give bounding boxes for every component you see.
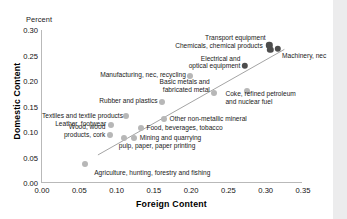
x-axis-tick: 0.35: [296, 186, 311, 195]
data-point: [108, 122, 114, 128]
data-point: [107, 132, 113, 138]
x-axis-tick: 0.25: [221, 186, 236, 195]
point-annotation: Other non-metallic mineral: [170, 115, 247, 123]
y-axis-label: Domestic Content: [12, 46, 22, 156]
data-point: [82, 161, 88, 167]
data-point: [159, 99, 165, 105]
x-axis-tick: 0.20: [184, 186, 199, 195]
data-point: [123, 113, 129, 119]
x-axis-label: Foreign Content: [41, 199, 302, 209]
x-axis-tick: 0.15: [146, 186, 161, 195]
point-annotation: Wood, wood products, cork: [42, 124, 105, 140]
point-annotation: Rubber and plastics: [42, 98, 158, 106]
point-annotation: pulp, paper, paper printing: [119, 142, 196, 150]
data-point: [138, 125, 144, 131]
point-annotation: Textiles and textile products: [42, 112, 121, 120]
y-axis-tick: 0.30: [23, 26, 38, 35]
unit-label: Percent: [26, 15, 52, 24]
point-annotation: Agriculture, hunting, forestry and fishi…: [94, 169, 210, 177]
y-axis-tick: 0.10: [23, 128, 38, 137]
x-axis-tick: 0.30: [258, 186, 273, 195]
point-annotation: Transport equipment: [42, 34, 266, 42]
point-annotation: Food, beverages, tobacco: [146, 124, 222, 132]
data-point: [121, 135, 127, 141]
point-annotation: Coke, refined petroleum and nuclear fuel: [225, 91, 295, 107]
scatter-chart: Percent Domestic Content 0.000.050.100.1…: [0, 0, 347, 219]
point-annotation: Chemicals, chemical products: [42, 42, 263, 50]
point-annotation: Machinery, nec: [282, 52, 326, 60]
trendline: [42, 30, 303, 183]
y-axis-tick: 0.20: [23, 77, 38, 86]
x-axis-tick: 0.05: [72, 186, 87, 195]
x-axis-tick: 0.10: [109, 186, 124, 195]
y-axis-tick: 0.05: [23, 153, 38, 162]
data-point: [161, 116, 167, 122]
page-gutter: [333, 0, 347, 219]
point-annotation: Electrical and optical equipment: [42, 55, 240, 71]
point-annotation: Basic metals and fabricated metal: [42, 78, 210, 94]
data-point: [211, 90, 217, 96]
data-point: [131, 135, 137, 141]
point-annotation: Mining and quarrying: [140, 134, 202, 142]
y-axis-tick: 0.25: [23, 51, 38, 60]
plot-area: 0.000.050.100.150.200.250.300.000.050.10…: [41, 30, 302, 183]
y-axis-tick: 0.15: [23, 102, 38, 111]
x-axis-tick: 0.00: [35, 186, 50, 195]
